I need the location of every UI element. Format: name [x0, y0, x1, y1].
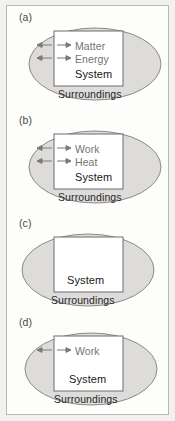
panel-d-scene: Work System Surroundings — [7, 328, 170, 412]
panel-b-scene: Work Heat System Surroundings — [7, 126, 170, 210]
panel-b-label: (b) — [19, 115, 32, 126]
panel-d-label: (d) — [19, 317, 32, 328]
flow-label-work-d: Work — [75, 346, 100, 357]
panel-d: (d) Work System — [7, 311, 170, 415]
figure-frame: (a) — [6, 5, 169, 415]
panel-a-label: (a) — [19, 12, 32, 23]
system-label-a: System — [75, 69, 112, 80]
system-label-d: System — [69, 374, 106, 385]
system-label-c: System — [67, 275, 104, 286]
flow-label-energy: Energy — [75, 54, 109, 65]
flow-label-heat: Heat — [75, 157, 98, 168]
surroundings-label-c: Surroundings — [51, 295, 115, 306]
figure-thermodynamic-systems: (a) — [0, 0, 175, 421]
flow-label-work: Work — [75, 144, 100, 155]
panel-a-scene: Matter Energy System Surroundings — [7, 23, 170, 107]
surroundings-label-d: Surroundings — [54, 394, 118, 405]
panel-c: (c) System Surroundings — [7, 212, 170, 316]
panel-a: (a) — [7, 6, 170, 110]
panel-c-label: (c) — [19, 218, 32, 229]
system-label-b: System — [75, 172, 112, 183]
flow-label-matter: Matter — [75, 41, 105, 52]
panel-c-scene: System Surroundings — [7, 229, 170, 313]
surroundings-label-b: Surroundings — [58, 192, 122, 203]
panel-b: (b) — [7, 109, 170, 213]
surroundings-label-a: Surroundings — [58, 89, 122, 100]
